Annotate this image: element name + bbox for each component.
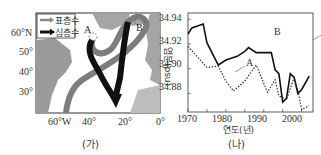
- y-axis-label: 염분(psu): [162, 47, 175, 86]
- lon-label-0: 0°: [156, 116, 165, 127]
- chart-caption: (나): [228, 136, 245, 151]
- lon-label-60w: 60°W: [48, 116, 71, 127]
- marker-a-label: A: [84, 24, 91, 35]
- lat-label-40: 40°: [19, 66, 33, 77]
- x-axis-label: 연도(년): [223, 123, 254, 136]
- marker-b-label: B: [136, 22, 143, 33]
- y-tick-3494: 34.94: [159, 12, 182, 23]
- lon-label-40: 40°: [82, 116, 96, 127]
- series-b-label: B: [274, 26, 281, 37]
- lat-label-30: 30°: [19, 86, 33, 97]
- salinity-chart-panel: B A 34.94 34.92 34.90 34.88 염분(psu) 1970…: [165, 0, 321, 155]
- lon-label-20: 20°: [118, 116, 132, 127]
- ocean-circulation-map: [0, 0, 165, 120]
- x-tick-2000: 2000: [282, 113, 302, 124]
- y-tick-3492: 34.92: [159, 35, 182, 46]
- x-tick-1970: 1970: [177, 113, 197, 124]
- salinity-line-chart: [165, 0, 321, 120]
- lat-label-50: 50°: [19, 46, 33, 57]
- lat-label-60n: 60°N: [11, 27, 32, 38]
- series-a-label: A: [246, 57, 253, 68]
- legend-label-deep: 심층수: [55, 26, 79, 39]
- map-caption: (가): [82, 136, 99, 151]
- map-panel: 표층수 심층수 A B 60°N 50° 40° 30° 60°W 40° 20…: [0, 0, 165, 155]
